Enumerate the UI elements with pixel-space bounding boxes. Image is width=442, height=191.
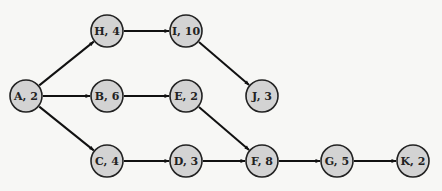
node-h: H, 4 bbox=[91, 15, 123, 47]
node-label: G, 5 bbox=[325, 155, 349, 168]
node-label: I, 10 bbox=[172, 25, 200, 38]
node-label: H, 4 bbox=[94, 25, 120, 38]
edge-i-to-j bbox=[199, 42, 249, 85]
node-label: A, 2 bbox=[13, 90, 38, 103]
edge-e-to-f bbox=[199, 107, 249, 150]
network-diagram: A, 2H, 4B, 6C, 4I, 10E, 2D, 3J, 3F, 8G, … bbox=[0, 0, 442, 191]
node-f: F, 8 bbox=[246, 145, 278, 177]
node-c: C, 4 bbox=[91, 145, 123, 177]
edge-a-to-h bbox=[39, 42, 93, 86]
node-g: G, 5 bbox=[321, 145, 353, 177]
node-j: J, 3 bbox=[246, 80, 278, 112]
node-label: K, 2 bbox=[401, 155, 426, 168]
node-label: E, 2 bbox=[174, 90, 198, 103]
node-k: K, 2 bbox=[397, 145, 429, 177]
node-d: D, 3 bbox=[170, 145, 202, 177]
node-a: A, 2 bbox=[10, 80, 42, 112]
node-label: J, 3 bbox=[251, 90, 272, 103]
node-label: F, 8 bbox=[251, 155, 273, 168]
node-label: D, 3 bbox=[174, 155, 198, 168]
node-e: E, 2 bbox=[170, 80, 202, 112]
node-label: B, 6 bbox=[95, 90, 120, 103]
node-i: I, 10 bbox=[170, 15, 202, 47]
node-label: C, 4 bbox=[95, 155, 119, 168]
edge-a-to-c bbox=[39, 107, 93, 151]
node-b: B, 6 bbox=[91, 80, 123, 112]
